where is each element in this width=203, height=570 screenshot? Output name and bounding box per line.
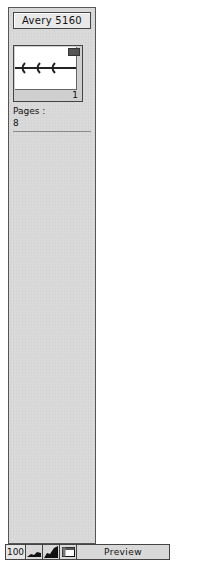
zoom-out-button[interactable] [26, 545, 43, 559]
pages-count: 8 [13, 118, 19, 128]
zoom-field[interactable]: 100 [6, 545, 26, 559]
small-mountain-icon [27, 547, 41, 557]
page-thumbnail[interactable]: 1 [13, 45, 83, 102]
large-mountain-icon [44, 546, 58, 558]
divider [13, 131, 91, 132]
document-title[interactable]: Avery 5160 [13, 12, 91, 29]
window-toggle-button[interactable] [60, 545, 77, 559]
page-number: 1 [72, 90, 78, 100]
preview-button[interactable]: Preview [77, 545, 169, 559]
zoom-in-button[interactable] [43, 545, 60, 559]
spiral-binding-icon [15, 61, 76, 75]
window-icon [62, 547, 75, 557]
page-badge-icon [68, 48, 80, 56]
bottom-toolbar: 100 Preview [5, 544, 170, 560]
pages-label: Pages : [13, 106, 45, 116]
pages-panel: Avery 5160 1 Pages : 8 [8, 7, 96, 544]
